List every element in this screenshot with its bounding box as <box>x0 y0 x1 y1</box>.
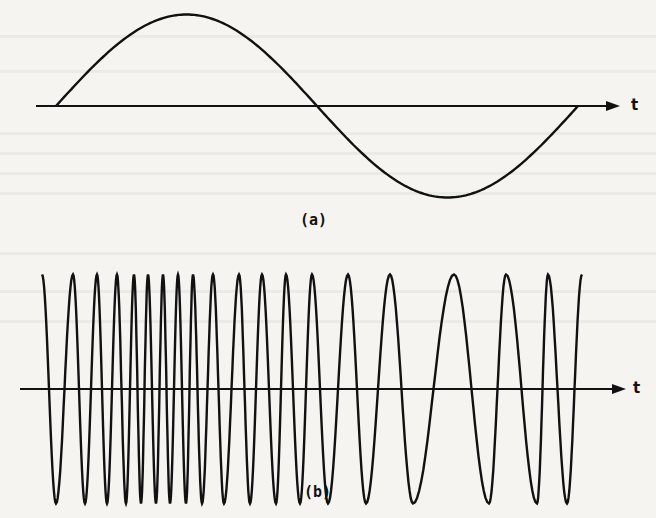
panel-b-caption: (b) <box>304 483 331 501</box>
waveform-plot <box>0 0 656 518</box>
panel-a-caption: (a) <box>300 211 327 229</box>
panel-b-axis-arrow-icon <box>612 384 626 394</box>
panel-a-axis-arrow-icon <box>606 101 620 111</box>
panel-a-axis-label: t <box>631 96 638 114</box>
panel-b-axis-label: t <box>633 379 640 397</box>
figure: t (a) t (b) <box>0 0 656 518</box>
